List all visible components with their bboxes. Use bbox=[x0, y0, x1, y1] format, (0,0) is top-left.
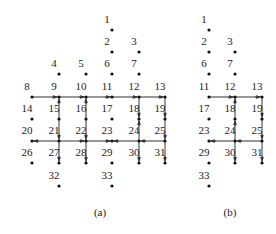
node-dot-24 bbox=[137, 139, 140, 142]
node-dot-30 bbox=[137, 161, 140, 164]
node-dot-25 bbox=[163, 139, 166, 142]
node-label: 1 bbox=[201, 13, 207, 25]
node-dot-7 bbox=[137, 72, 140, 75]
node-label: 15 bbox=[49, 102, 61, 114]
node-label: 24 bbox=[129, 124, 141, 136]
node-label: 22 bbox=[76, 124, 87, 136]
node-label: 30 bbox=[129, 146, 141, 158]
node-dot-26 bbox=[30, 161, 33, 164]
node-dot-3 bbox=[137, 50, 140, 53]
node-dot-20 bbox=[30, 139, 33, 142]
node-label: 7 bbox=[227, 57, 233, 69]
node-dot-24 bbox=[233, 139, 236, 142]
node-dot-12 bbox=[137, 95, 140, 98]
node-dot-13 bbox=[163, 95, 166, 98]
node-label: 8 bbox=[24, 80, 30, 92]
node-dot-25 bbox=[260, 139, 263, 142]
node-label: 6 bbox=[201, 57, 207, 69]
node-label: 23 bbox=[102, 124, 114, 136]
node-dot-6 bbox=[110, 72, 113, 75]
node-label: 18 bbox=[225, 102, 237, 114]
node-label: 33 bbox=[102, 169, 114, 181]
node-label: 2 bbox=[104, 35, 110, 47]
node-label: 32 bbox=[49, 169, 60, 181]
node-label: 10 bbox=[76, 80, 88, 92]
node-label: 17 bbox=[102, 102, 114, 114]
node-dot-28 bbox=[84, 161, 87, 164]
node-dot-22 bbox=[84, 139, 87, 142]
node-label: 11 bbox=[199, 80, 210, 92]
node-dot-13 bbox=[260, 95, 263, 98]
node-dot-6 bbox=[207, 72, 210, 75]
node-label: 33 bbox=[199, 169, 211, 181]
node-dot-5 bbox=[84, 72, 87, 75]
node-dot-29 bbox=[207, 161, 210, 164]
node-label: 19 bbox=[252, 102, 264, 114]
node-dot-23 bbox=[110, 139, 113, 142]
node-label: 25 bbox=[252, 124, 264, 136]
node-label: 29 bbox=[199, 146, 211, 158]
node-dot-16 bbox=[84, 117, 87, 120]
node-dot-14 bbox=[30, 117, 33, 120]
node-label: 24 bbox=[225, 124, 237, 136]
node-label: 13 bbox=[252, 80, 264, 92]
node-dot-1 bbox=[110, 28, 113, 31]
node-label: 12 bbox=[225, 80, 236, 92]
panel-caption: (b) bbox=[224, 206, 237, 219]
node-label: 26 bbox=[22, 146, 34, 158]
node-dot-3 bbox=[233, 50, 236, 53]
node-label: 28 bbox=[76, 146, 88, 158]
node-label: 12 bbox=[129, 80, 140, 92]
node-dot-8 bbox=[30, 95, 33, 98]
node-label: 2 bbox=[201, 35, 207, 47]
node-dot-9 bbox=[57, 95, 60, 98]
node-label: 11 bbox=[102, 80, 113, 92]
node-label: 18 bbox=[129, 102, 141, 114]
node-label: 3 bbox=[131, 35, 137, 47]
node-dot-33 bbox=[207, 184, 210, 187]
node-dot-18 bbox=[233, 117, 236, 120]
node-label: 25 bbox=[155, 124, 167, 136]
node-label: 19 bbox=[155, 102, 167, 114]
node-dot-33 bbox=[110, 184, 113, 187]
node-label: 27 bbox=[49, 146, 61, 158]
node-label: 4 bbox=[51, 57, 57, 69]
node-label: 3 bbox=[227, 35, 233, 47]
panel-a: 1234567891011121314151617181920212223242… bbox=[22, 13, 167, 219]
node-label: 7 bbox=[131, 57, 137, 69]
node-label: 9 bbox=[51, 80, 57, 92]
node-dot-17 bbox=[207, 117, 210, 120]
node-dot-19 bbox=[260, 117, 263, 120]
node-dot-18 bbox=[137, 117, 140, 120]
node-dot-2 bbox=[207, 50, 210, 53]
node-dot-19 bbox=[163, 117, 166, 120]
node-label: 30 bbox=[225, 146, 237, 158]
node-label: 31 bbox=[252, 146, 263, 158]
panel-b: 1236711121317181923242529303133(b) bbox=[199, 13, 264, 219]
node-dot-11 bbox=[110, 95, 113, 98]
grid-diagram: 1234567891011121314151617181920212223242… bbox=[0, 0, 276, 234]
node-label: 29 bbox=[102, 146, 114, 158]
node-label: 21 bbox=[49, 124, 60, 136]
node-dot-21 bbox=[57, 139, 60, 142]
node-label: 6 bbox=[104, 57, 110, 69]
node-dot-12 bbox=[233, 95, 236, 98]
node-label: 1 bbox=[104, 13, 110, 25]
node-dot-31 bbox=[260, 161, 263, 164]
node-label: 20 bbox=[22, 124, 34, 136]
node-dot-27 bbox=[57, 161, 60, 164]
node-label: 31 bbox=[155, 146, 166, 158]
node-label: 17 bbox=[199, 102, 211, 114]
node-dot-4 bbox=[57, 72, 60, 75]
node-dot-30 bbox=[233, 161, 236, 164]
node-label: 5 bbox=[78, 57, 84, 69]
panel-caption: (a) bbox=[94, 206, 107, 219]
node-dot-7 bbox=[233, 72, 236, 75]
node-label: 14 bbox=[22, 102, 34, 114]
node-dot-23 bbox=[207, 139, 210, 142]
node-label: 16 bbox=[76, 102, 88, 114]
node-label: 23 bbox=[199, 124, 211, 136]
node-dot-11 bbox=[207, 95, 210, 98]
node-dot-31 bbox=[163, 161, 166, 164]
node-dot-17 bbox=[110, 117, 113, 120]
